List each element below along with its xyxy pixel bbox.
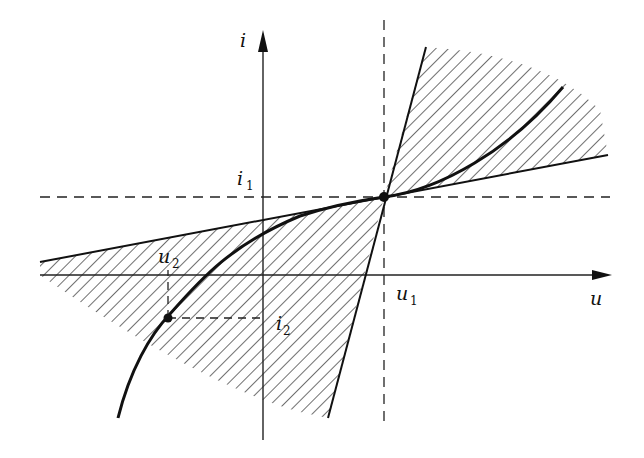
- axis-i-label: i: [240, 29, 246, 51]
- svg-text:u: u: [158, 245, 170, 267]
- arrow-right-icon: [592, 270, 612, 280]
- operating-point-1: [379, 192, 389, 202]
- arrow-up-icon: [258, 30, 268, 52]
- svg-text:1: 1: [246, 179, 254, 193]
- svg-text:2: 2: [172, 257, 180, 271]
- label-u1: u 1: [396, 282, 418, 308]
- svg-text:i: i: [237, 167, 243, 189]
- diagram-canvas: i u i 1 u 1 u 2 i 2: [0, 0, 644, 458]
- svg-text:1: 1: [410, 294, 418, 308]
- operating-point-2: [164, 314, 173, 323]
- svg-text:u: u: [396, 282, 408, 304]
- hatched-region-upper: [380, 40, 620, 210]
- svg-text:i: i: [276, 312, 282, 334]
- svg-text:2: 2: [283, 324, 291, 338]
- axis-u-label: u: [590, 287, 602, 309]
- label-i1: i 1: [237, 167, 254, 193]
